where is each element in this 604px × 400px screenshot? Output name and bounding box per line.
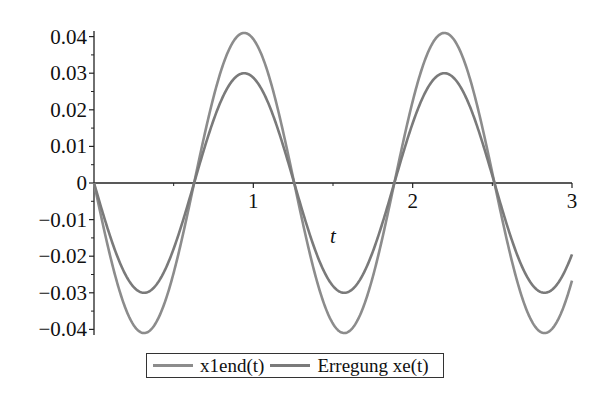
x-tick-label: 3 [567,189,578,213]
legend: x1end(t) Erregung xe(t) [146,353,444,378]
y-tick-label: 0.03 [50,61,87,85]
y-tick-label: −0.02 [38,244,87,268]
legend-entry-x1end: x1end(t) [153,355,264,377]
x-tick-label: 2 [407,189,418,213]
legend-swatch-x1end [153,364,193,367]
legend-entry-erregung: Erregung xe(t) [270,355,428,377]
y-tick-label: 0.01 [50,134,87,158]
y-tick-label: −0.03 [38,281,87,305]
legend-swatch-erregung [270,364,310,367]
y-tick-label: −0.01 [38,208,87,232]
y-tick-label: 0 [77,171,88,195]
y-tick-label: 0.04 [50,25,87,49]
x-tick-label: 1 [248,189,259,213]
legend-label-erregung: Erregung xe(t) [317,355,428,377]
y-tick-label: 0.02 [50,98,87,122]
axes [89,31,572,335]
y-tick-label: −0.04 [38,317,87,341]
plot-area: 0.040.030.020.010−0.01−0.02−0.03−0.04123… [0,0,604,400]
legend-label-x1end: x1end(t) [200,355,264,377]
x-axis-label: t [330,224,337,248]
